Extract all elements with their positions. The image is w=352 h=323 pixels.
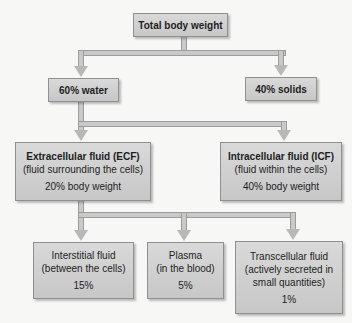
node-description: (fluid surrounding the cells) — [23, 163, 143, 176]
node-solids: 40% solids — [245, 77, 317, 101]
connector-transcellular-drop — [290, 212, 296, 230]
node-label: 40% solids — [255, 83, 307, 96]
node-transcellular: Transcellular fluid (actively secreted i… — [235, 241, 343, 314]
node-label: 60% water — [59, 84, 108, 97]
node-title: Extracellular fluid (ECF) — [26, 150, 139, 163]
node-title: Plasma — [169, 249, 202, 262]
node-percent: 5% — [178, 279, 192, 292]
node-percent: 1% — [282, 293, 296, 306]
node-title: Transcellular fluid — [250, 250, 328, 263]
node-water: 60% water — [48, 78, 119, 102]
node-description: (in the blood) — [156, 262, 214, 275]
node-description: (between the cells) — [42, 262, 126, 275]
arrow-down-icon — [74, 230, 88, 241]
node-title: Interstitial fluid — [52, 249, 116, 262]
node-description: (actively secreted in small quantities) — [240, 263, 338, 289]
node-percent: 40% body weight — [243, 180, 319, 193]
connector-ecf-bar — [78, 212, 296, 218]
connector-root-bar — [78, 50, 286, 56]
arrow-down-icon — [177, 230, 191, 241]
node-total-body-weight: Total body weight — [133, 13, 228, 37]
node-icf: Intracellular fluid (ICF) (fluid within … — [220, 142, 342, 201]
arrow-down-icon — [277, 130, 291, 141]
arrow-down-icon — [274, 65, 288, 76]
node-label: Total body weight — [138, 19, 222, 32]
node-ecf: Extracellular fluid (ECF) (fluid surroun… — [15, 142, 151, 201]
connector-water-bar — [78, 121, 287, 127]
node-description: (fluid within the cells) — [235, 163, 328, 176]
node-title: Intracellular fluid (ICF) — [228, 150, 334, 163]
node-interstitial: Interstitial fluid (between the cells) 1… — [33, 242, 134, 299]
node-percent: 20% body weight — [45, 180, 121, 193]
node-plasma: Plasma (in the blood) 5% — [147, 242, 224, 299]
arrow-down-icon — [286, 229, 300, 240]
arrow-down-icon — [74, 130, 88, 141]
node-percent: 15% — [73, 279, 93, 292]
connector-plasma-drop — [181, 212, 187, 231]
arrow-down-icon — [74, 66, 88, 77]
